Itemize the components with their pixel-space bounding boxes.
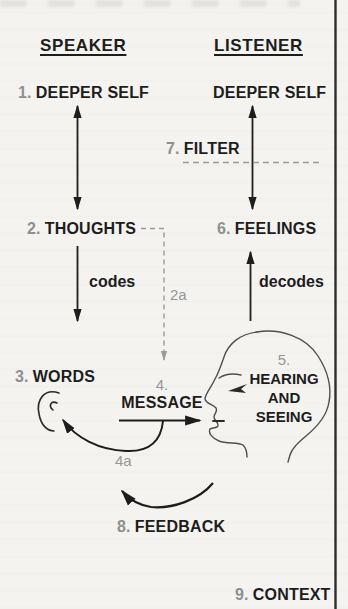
- node-number: 5.: [234, 351, 334, 368]
- node-deeper-self-listener: DEEPER SELF: [213, 84, 326, 102]
- node-number: 9.: [235, 586, 249, 603]
- message-to-ear-curve-arrow: [63, 420, 163, 451]
- node-number: 4.: [102, 376, 222, 393]
- decodes-edge-label: decodes: [259, 273, 324, 291]
- node-filter: 7.FILTER: [166, 140, 240, 158]
- node-label-line: SEEING: [234, 407, 334, 426]
- node-number: 3.: [15, 368, 29, 385]
- node-label: WORDS: [33, 368, 95, 385]
- alt-route-4a-label: 4a: [115, 452, 132, 469]
- node-number: 6.: [217, 220, 231, 237]
- node-message: 4. MESSAGE: [102, 376, 222, 412]
- node-label: FEELINGS: [235, 220, 317, 237]
- node-words: 3.WORDS: [15, 368, 95, 386]
- node-number: 1.: [18, 84, 32, 101]
- codes-edge-label: codes: [89, 273, 135, 291]
- scanned-diagram-page: SPEAKER LISTENER 1.DEEPER SELF DEEPER SE…: [0, 0, 348, 609]
- node-deeper-self-speaker: 1.DEEPER SELF: [18, 84, 149, 102]
- alt-route-2a-label: 2a: [170, 286, 187, 303]
- node-label: CONTEXT: [253, 586, 331, 603]
- node-label: MESSAGE: [121, 394, 202, 411]
- node-label-line: HEARING: [234, 369, 334, 388]
- listener-column-header: LISTENER: [214, 36, 303, 56]
- speaker-column-header: SPEAKER: [40, 36, 126, 56]
- node-label: FILTER: [184, 140, 240, 157]
- node-feelings: 6.FEELINGS: [217, 220, 316, 238]
- node-number: 7.: [166, 140, 180, 157]
- node-label: DEEPER SELF: [36, 84, 149, 101]
- node-hearing-and-seeing: 5. HEARING AND SEEING: [234, 351, 334, 426]
- node-number: 8.: [117, 518, 131, 535]
- ear-icon: [38, 392, 59, 431]
- node-thoughts: 2.THOUGHTS: [27, 220, 136, 238]
- feedback-curve-arrow: [122, 483, 213, 507]
- node-number: 2.: [27, 220, 41, 237]
- node-context: 9.CONTEXT: [235, 586, 331, 604]
- node-feedback: 8.FEEDBACK: [117, 518, 225, 536]
- node-label: FEEDBACK: [135, 518, 226, 535]
- node-label: DEEPER SELF: [213, 84, 326, 101]
- node-label: THOUGHTS: [45, 220, 136, 237]
- thoughts-to-message-dashed-arrow: [141, 229, 164, 361]
- node-label-line: AND: [234, 388, 334, 407]
